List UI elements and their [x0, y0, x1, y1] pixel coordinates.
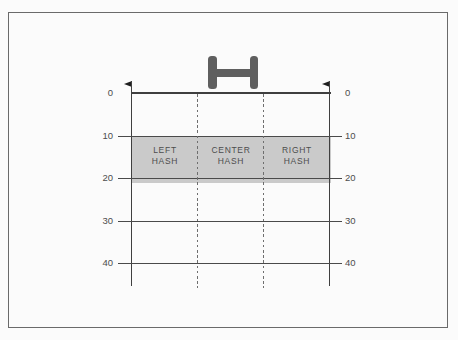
yard-label-left-20: 20: [88, 172, 113, 184]
left-hash-line-dashed: [197, 94, 198, 288]
right-hash-line-dashed: [263, 94, 264, 288]
yard-label-right-30: 30: [345, 215, 370, 227]
zone-label-left-hash: LEFT HASH: [132, 138, 198, 173]
yard-label-left-30: 30: [88, 215, 113, 227]
zone-label-center-hash: CENTER HASH: [198, 138, 264, 173]
yard-label-right-20: 20: [345, 172, 370, 184]
yard-line-40: [118, 263, 342, 264]
yard-line-20: [118, 178, 342, 179]
yard-line-10: [118, 136, 342, 137]
zone-label-right-hash: RIGHT HASH: [264, 138, 330, 173]
yard-line-30: [118, 221, 342, 222]
yard-label-right-0: 0: [345, 87, 370, 99]
goalpost-crossbar: [214, 69, 252, 78]
yard-label-left-10: 10: [88, 130, 113, 142]
goal-line-0: [131, 92, 331, 94]
goalpost-icon: [208, 56, 258, 89]
yard-label-right-40: 40: [345, 257, 370, 269]
yard-label-left-40: 40: [88, 257, 113, 269]
right-sideline: [329, 81, 331, 286]
hash-marks-diagram: LEFT HASH CENTER HASH RIGHT HASH 0 10 20…: [0, 0, 458, 340]
yard-label-left-0: 0: [88, 87, 113, 99]
left-sideline: [131, 81, 133, 286]
yard-label-right-10: 10: [345, 130, 370, 142]
goalpost-upright-right: [250, 56, 259, 89]
